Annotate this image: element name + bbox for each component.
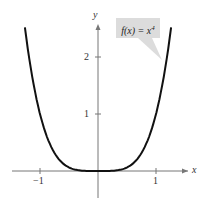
x-tick-label: −1 <box>33 175 44 186</box>
function-label: f(x) = x4 <box>116 18 160 38</box>
y-tick-label: 2 <box>84 51 89 62</box>
y-arrow-icon <box>96 24 101 30</box>
x-axis-label: x <box>192 164 196 175</box>
chart: f(x) = x4 y x −1 1 1 2 <box>0 0 212 204</box>
callout-pointer <box>138 38 162 60</box>
y-axis-label: y <box>93 9 97 20</box>
x-arrow-icon <box>182 169 188 174</box>
x-tick-label: 1 <box>153 175 158 186</box>
plot-area <box>0 0 212 204</box>
y-tick-label: 1 <box>84 108 89 119</box>
